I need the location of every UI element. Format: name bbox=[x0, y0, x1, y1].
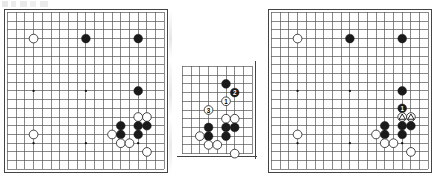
move-number-label: 1 bbox=[224, 97, 228, 104]
black-stone[interactable] bbox=[133, 86, 142, 95]
white-stone[interactable] bbox=[293, 130, 302, 139]
white-stone[interactable] bbox=[29, 130, 38, 139]
move-number-label: 3 bbox=[206, 106, 210, 113]
black-stone[interactable] bbox=[230, 123, 239, 132]
white-stone[interactable] bbox=[204, 140, 213, 149]
black-stone[interactable] bbox=[397, 86, 406, 95]
black-stone[interactable] bbox=[116, 130, 125, 139]
diagram-2[interactable]: 123 bbox=[177, 61, 258, 159]
white-stone[interactable] bbox=[116, 138, 125, 147]
move-number-label: 2 bbox=[233, 89, 237, 96]
go-diagrams-figure: 1231 bbox=[0, 0, 436, 181]
white-stone[interactable] bbox=[230, 149, 239, 158]
black-stone[interactable] bbox=[221, 79, 230, 88]
black-stone[interactable] bbox=[204, 123, 213, 132]
black-stone[interactable] bbox=[380, 121, 389, 130]
white-stone[interactable] bbox=[142, 112, 151, 121]
white-stone[interactable] bbox=[380, 138, 389, 147]
black-stone[interactable] bbox=[204, 131, 213, 140]
black-stone[interactable] bbox=[345, 34, 354, 43]
black-stone[interactable] bbox=[142, 121, 151, 130]
white-stone[interactable] bbox=[406, 147, 415, 156]
move-number-label: 1 bbox=[400, 104, 404, 111]
black-stone[interactable] bbox=[380, 130, 389, 139]
black-stone[interactable] bbox=[221, 123, 230, 132]
white-stone[interactable] bbox=[389, 138, 398, 147]
diagram-3[interactable]: 1 bbox=[266, 7, 434, 175]
white-stone[interactable] bbox=[371, 130, 380, 139]
black-stone[interactable] bbox=[133, 34, 142, 43]
white-stone[interactable] bbox=[221, 114, 230, 123]
black-stone[interactable] bbox=[406, 121, 415, 130]
black-stone[interactable] bbox=[81, 34, 90, 43]
white-stone[interactable] bbox=[107, 130, 116, 139]
white-stone[interactable] bbox=[142, 147, 151, 156]
white-stone[interactable] bbox=[230, 114, 239, 123]
white-stone[interactable] bbox=[29, 34, 38, 43]
white-stone[interactable] bbox=[125, 138, 134, 147]
white-stone[interactable] bbox=[212, 140, 221, 149]
black-stone[interactable] bbox=[397, 34, 406, 43]
white-stone[interactable] bbox=[133, 112, 142, 121]
black-stone[interactable] bbox=[397, 130, 406, 139]
black-stone[interactable] bbox=[133, 121, 142, 130]
white-stone[interactable] bbox=[195, 131, 204, 140]
black-stone[interactable] bbox=[397, 121, 406, 130]
diagram-1[interactable] bbox=[2, 7, 170, 175]
black-stone[interactable] bbox=[133, 130, 142, 139]
black-stone[interactable] bbox=[116, 121, 125, 130]
black-stone[interactable] bbox=[221, 131, 230, 140]
white-stone[interactable] bbox=[293, 34, 302, 43]
